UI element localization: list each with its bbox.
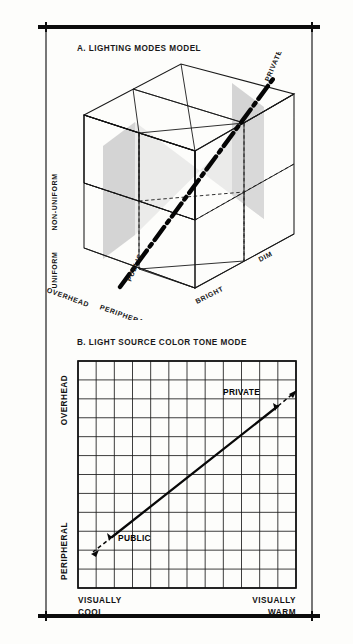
axis-label-dim: DIM bbox=[257, 250, 273, 263]
public-label-b: PUBLIC bbox=[118, 533, 151, 543]
figure-page: A. LIGHTING MODES MODEL bbox=[0, 0, 353, 644]
axis-label-peripheral: PERIPHERAL bbox=[99, 303, 150, 320]
axis-label-overhead: OVERHEAD bbox=[46, 286, 90, 308]
private-label-b: PRIVATE bbox=[223, 387, 260, 397]
axis-label-bright: BRIGHT bbox=[194, 285, 224, 305]
x-axis-label-cool-line2: COOL bbox=[78, 608, 104, 617]
top-rule bbox=[38, 25, 320, 29]
corner-tick-top-right bbox=[311, 22, 313, 32]
chart-gridlines bbox=[78, 361, 296, 588]
color-tone-grid-chart: PUBLIC PRIVATE OVERHEAD PERIPHERAL VISUA… bbox=[45, 330, 312, 620]
axis-label-uniform: UNIFORM bbox=[51, 252, 58, 289]
panel-a-lighting-modes-model: NON-UNIFORM UNIFORM OVERHEAD PERIPHERAL … bbox=[45, 52, 312, 320]
y-axis-label-overhead: OVERHEAD bbox=[60, 375, 69, 425]
cube-inner-cell bbox=[84, 89, 195, 220]
corner-tick-top-left bbox=[45, 22, 47, 32]
x-axis-label-warm-line1: VISUALLY bbox=[252, 596, 296, 605]
x-axis-label-cool-line1: VISUALLY bbox=[78, 596, 122, 605]
public-private-trendline bbox=[91, 390, 297, 557]
y-axis-label-peripheral: PERIPHERAL bbox=[60, 522, 69, 580]
panel-b-light-source-color-tone-mode: PUBLIC PRIVATE OVERHEAD PERIPHERAL VISUA… bbox=[45, 330, 312, 620]
axis-label-non-uniform: NON-UNIFORM bbox=[51, 173, 58, 230]
x-axis-label-warm-line2: WARM bbox=[268, 608, 296, 617]
lighting-modes-3d-diagram: NON-UNIFORM UNIFORM OVERHEAD PERIPHERAL … bbox=[45, 52, 312, 320]
